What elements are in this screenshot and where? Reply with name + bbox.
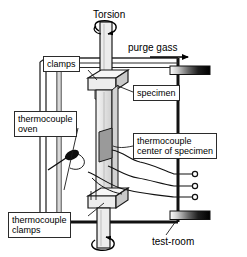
label-purge-gas: purge gass xyxy=(128,42,177,53)
drive-shaft-bottom xyxy=(97,208,110,248)
label-clamps: clamps xyxy=(43,56,80,72)
oven-thermocouple-probe xyxy=(48,148,84,170)
heater-bottom xyxy=(170,211,210,220)
thermocouple-terminals xyxy=(192,171,197,199)
label-specimen: specimen xyxy=(133,85,180,101)
label-thermocouple-oven: thermocouple oven xyxy=(14,111,77,137)
heater-top xyxy=(170,66,210,75)
torsion-apparatus-diagram: Torsion purge gass clamps specimen therm… xyxy=(0,0,247,257)
label-thermocouple-clamps: thermocouple clamps xyxy=(8,212,71,238)
oven-wall-fill xyxy=(58,66,61,213)
leader-specimen xyxy=(118,86,133,92)
thermocouple-center-patch xyxy=(99,128,112,162)
lower-clamp xyxy=(88,188,128,208)
drive-shaft-top xyxy=(100,22,112,74)
label-thermocouple-center-of-specimen: thermocouple center of specimen xyxy=(133,133,217,159)
label-test-room: test-room xyxy=(152,236,194,247)
label-torsion: Torsion xyxy=(93,9,125,20)
